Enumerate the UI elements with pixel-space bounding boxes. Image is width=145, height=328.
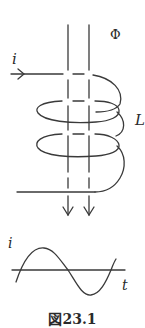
current-label: i: [12, 52, 17, 67]
flux-label: Φ: [110, 28, 121, 41]
winding-2: [37, 134, 119, 157]
sine-wave: [16, 248, 116, 295]
figure-caption: 図23.1: [0, 308, 145, 328]
inductance-label: L: [135, 113, 145, 128]
graph-x-label: t: [122, 278, 128, 292]
graph-y-label: i: [8, 236, 12, 250]
